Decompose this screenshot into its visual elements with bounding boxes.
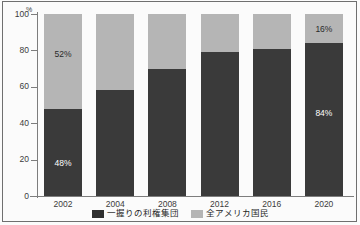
y-tick-label: 0 bbox=[24, 192, 29, 201]
y-tick-label-wrap: 40 bbox=[0, 119, 29, 128]
bar-segment-lower[interactable]: 48% bbox=[44, 109, 82, 196]
bar-group[interactable] bbox=[96, 14, 134, 196]
bar-value-label-lower: 84% bbox=[305, 108, 343, 118]
legend-item-lower[interactable]: 一握りの利権集団 bbox=[92, 209, 179, 218]
bar-value-label-upper: 16% bbox=[305, 24, 343, 34]
plot-area: 52%48%16%84% bbox=[37, 14, 350, 196]
bar-segment-upper[interactable] bbox=[148, 14, 186, 69]
y-tick-label-wrap: 80 bbox=[0, 46, 29, 55]
y-tick-label-wrap: 0 bbox=[0, 192, 29, 201]
bar-segment-lower[interactable] bbox=[148, 69, 186, 196]
y-tick-label-wrap: 100 bbox=[0, 10, 29, 19]
legend-label-upper: 全アメリカ国民 bbox=[206, 209, 269, 218]
bar-segment-lower[interactable] bbox=[96, 90, 134, 196]
bar-group[interactable]: 52%48% bbox=[44, 14, 82, 196]
y-tick-label: 80 bbox=[20, 46, 29, 55]
bar-segment-upper[interactable] bbox=[96, 14, 134, 90]
bar-group[interactable] bbox=[201, 14, 239, 196]
y-tick-label: 60 bbox=[20, 82, 29, 91]
y-tick-mark bbox=[31, 196, 37, 197]
chart-legend: 一握りの利権集団 全アメリカ国民 bbox=[0, 209, 360, 218]
bar-value-label-upper: 52% bbox=[44, 49, 82, 59]
legend-label-lower: 一握りの利権集団 bbox=[107, 209, 179, 218]
bar-group[interactable]: 16%84% bbox=[305, 14, 343, 196]
bar-group[interactable] bbox=[148, 14, 186, 196]
y-tick-label-wrap: 60 bbox=[0, 82, 29, 91]
y-tick-label: 20 bbox=[20, 155, 29, 164]
bar-segment-lower[interactable]: 84% bbox=[305, 43, 343, 196]
legend-item-upper[interactable]: 全アメリカ国民 bbox=[191, 209, 269, 218]
stacked-bar-chart-figure: % 100806040200 52%48%16%84% 200220042008… bbox=[0, 0, 360, 225]
bar-segment-lower[interactable] bbox=[201, 52, 239, 196]
bar-segment-upper[interactable]: 16% bbox=[305, 14, 343, 43]
x-axis-label: 2020 bbox=[301, 199, 347, 209]
bar-segment-upper[interactable] bbox=[253, 14, 291, 49]
bar-value-label-lower: 48% bbox=[44, 158, 82, 168]
y-tick-label: 40 bbox=[20, 119, 29, 128]
bar-group[interactable] bbox=[253, 14, 291, 196]
bar-segment-upper[interactable]: 52% bbox=[44, 14, 82, 109]
x-axis-line bbox=[30, 196, 354, 197]
bar-segment-lower[interactable] bbox=[253, 49, 291, 196]
legend-swatch-icon-lower bbox=[92, 210, 104, 218]
y-tick-label: 100 bbox=[15, 10, 29, 19]
y-tick-label-wrap: 20 bbox=[0, 155, 29, 164]
bar-segment-upper[interactable] bbox=[201, 14, 239, 52]
x-axis-label: 2002 bbox=[40, 199, 86, 209]
legend-swatch-icon-upper bbox=[191, 210, 203, 218]
